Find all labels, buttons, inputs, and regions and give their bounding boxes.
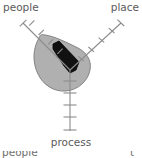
next-figure-label-left: people (2, 151, 38, 158)
axis-label-people: people (3, 1, 39, 13)
radar-chart-canvas: people place process (0, 0, 142, 158)
axis-label-process: process (51, 136, 91, 148)
radar-chart: people place process people t (0, 0, 142, 158)
next-figure-clipped-strip: people t (0, 151, 142, 158)
tick-people-4 (29, 20, 34, 25)
axis-place (70, 23, 121, 70)
axis-label-place: place (111, 1, 139, 13)
next-figure-label-right: t (130, 151, 134, 158)
